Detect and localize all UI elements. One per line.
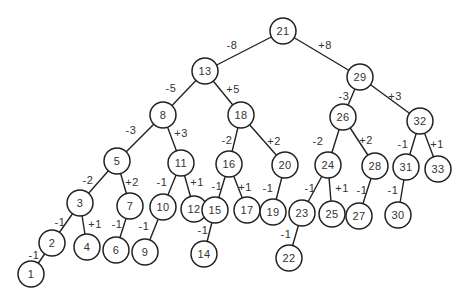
edge-label: +1 — [238, 181, 252, 193]
edge-label: +1 — [430, 138, 444, 150]
tree-node-7: 7 — [117, 193, 143, 219]
node-label: 23 — [295, 207, 308, 219]
edge-label: +1 — [335, 182, 349, 194]
edge-label: +3 — [174, 127, 188, 139]
node-label: 28 — [368, 160, 381, 172]
node-label: 25 — [325, 208, 338, 220]
node-label: 9 — [142, 246, 149, 258]
tree-node-10: 10 — [150, 194, 176, 220]
tree-node-16: 16 — [216, 151, 242, 177]
tree-node-6: 6 — [103, 237, 129, 263]
tree-node-2: 2 — [39, 230, 65, 256]
node-label: 7 — [127, 200, 134, 212]
node-label: 33 — [431, 163, 444, 175]
edge-label: +1 — [88, 218, 102, 230]
node-label: 31 — [399, 161, 412, 173]
edge-label: -5 — [166, 82, 177, 94]
edge-label: -1 — [263, 182, 274, 194]
edge-label: -1 — [139, 220, 150, 232]
node-label: 32 — [413, 115, 426, 127]
tree-node-22: 22 — [276, 245, 302, 271]
node-label: 13 — [198, 65, 211, 77]
edge-label: -1 — [281, 228, 292, 240]
tree-node-1: 1 — [18, 261, 44, 287]
node-label: 30 — [391, 209, 404, 221]
node-label: 27 — [352, 210, 365, 222]
tree-node-31: 31 — [393, 154, 419, 180]
tree-node-30: 30 — [385, 202, 411, 228]
node-label: 2 — [49, 237, 56, 249]
node-label: 4 — [84, 241, 91, 253]
node-label: 6 — [113, 244, 120, 256]
node-label: 16 — [222, 158, 235, 170]
tree-node-20: 20 — [272, 152, 298, 178]
edge-label: -3 — [126, 124, 137, 136]
tree-node-33: 33 — [425, 156, 451, 182]
node-label: 20 — [278, 159, 291, 171]
tree-diagram: -8+8-5+5-3+3-3+3-2+2-2+2-1+1-2+2-1+1-1+1… — [0, 0, 473, 301]
edge-label: -1 — [157, 176, 168, 188]
tree-node-9: 9 — [132, 239, 158, 265]
node-label: 14 — [197, 248, 210, 260]
edge-label: -2 — [83, 174, 94, 186]
node-label: 8 — [160, 109, 167, 121]
tree-node-4: 4 — [74, 234, 100, 260]
tree-node-21: 21 — [270, 18, 296, 44]
edge-label: -1 — [388, 184, 399, 196]
tree-node-13: 13 — [192, 58, 218, 84]
edge-label: -1 — [398, 138, 409, 150]
node-label: 5 — [114, 155, 121, 167]
node-label: 17 — [240, 204, 253, 216]
tree-node-17: 17 — [234, 197, 260, 223]
node-label: 22 — [282, 252, 295, 264]
node-label: 1 — [28, 268, 35, 280]
tree-node-15: 15 — [202, 197, 228, 223]
node-label: 12 — [187, 203, 200, 215]
tree-node-29: 29 — [347, 64, 373, 90]
tree-node-24: 24 — [315, 152, 341, 178]
edge-label: -2 — [222, 134, 233, 146]
edge-label: -1 — [357, 184, 368, 196]
node-label: 24 — [321, 159, 334, 171]
tree-node-11: 11 — [168, 150, 194, 176]
node-label: 11 — [175, 157, 187, 169]
edge-label: -1 — [198, 224, 209, 236]
edge-label: +3 — [388, 90, 402, 102]
edge-label: -1 — [112, 218, 123, 230]
edge-label: +1 — [190, 176, 204, 188]
tree-node-23: 23 — [289, 200, 315, 226]
edge-label: -8 — [227, 39, 238, 51]
node-label: 18 — [234, 109, 247, 121]
edge-label: +2 — [125, 176, 139, 188]
node-label: 21 — [276, 25, 289, 37]
tree-node-5: 5 — [104, 148, 130, 174]
edge-labels-layer: -8+8-5+5-3+3-3+3-2+2-2+2-1+1-2+2-1+1-1+1… — [29, 39, 444, 261]
tree-node-25: 25 — [319, 201, 345, 227]
edge-label: -1 — [55, 216, 66, 228]
edge-label: -1 — [212, 180, 223, 192]
edge-label: -1 — [305, 182, 316, 194]
node-label: 15 — [208, 204, 221, 216]
edge-label: -3 — [339, 90, 350, 102]
tree-node-32: 32 — [407, 108, 433, 134]
nodes-layer: 2113298182632511162024283133371012151719… — [18, 18, 451, 287]
node-label: 26 — [336, 111, 349, 123]
tree-node-14: 14 — [191, 241, 217, 267]
node-label: 29 — [353, 71, 366, 83]
node-label: 19 — [266, 206, 279, 218]
edge-label: -2 — [313, 135, 324, 147]
tree-node-27: 27 — [346, 203, 372, 229]
tree-node-28: 28 — [362, 153, 388, 179]
edge-label: +2 — [359, 134, 373, 146]
tree-node-18: 18 — [228, 102, 254, 128]
node-label: 10 — [156, 201, 169, 213]
edge-label: +5 — [226, 83, 240, 95]
tree-node-8: 8 — [150, 102, 176, 128]
tree-node-3: 3 — [67, 190, 93, 216]
tree-node-19: 19 — [260, 199, 286, 225]
node-label: 3 — [77, 197, 84, 209]
edge-label: +2 — [267, 135, 281, 147]
edge-label: +8 — [318, 39, 332, 51]
tree-node-26: 26 — [330, 104, 356, 130]
edge-label: -1 — [29, 249, 40, 261]
